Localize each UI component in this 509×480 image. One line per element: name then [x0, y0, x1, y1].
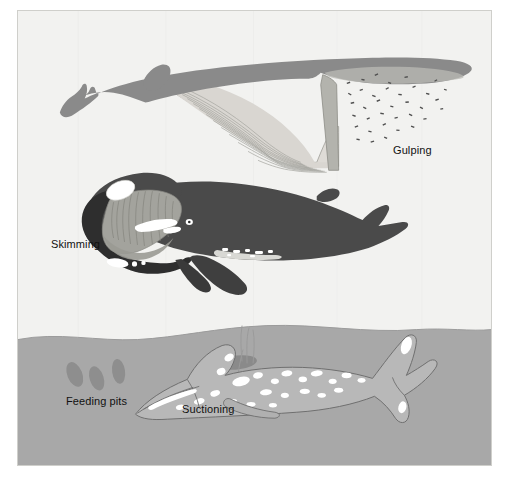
skimming-whale-chin-spot-1: [132, 261, 137, 266]
whale-feeding-scene: [18, 11, 491, 465]
skimming-whale-chin-spot-2: [141, 261, 145, 265]
figure-root: Gulping Skimming Feeding pits Suctioning: [0, 0, 509, 480]
skimming-whale-pupil: [188, 221, 191, 224]
illustration-frame: Gulping Skimming Feeding pits Suctioning: [17, 10, 492, 466]
